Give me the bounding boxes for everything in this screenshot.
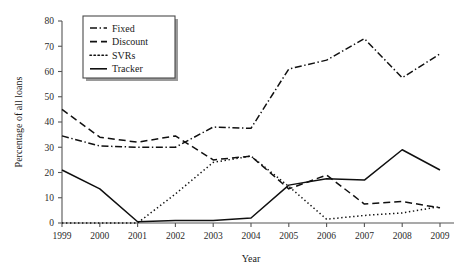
y-axis-title: Percentage of all loans bbox=[13, 76, 24, 167]
line-chart: 01020304050607080 1999200020012002200320… bbox=[0, 0, 463, 272]
series-line-discount bbox=[62, 109, 440, 207]
y-axis: 01020304050607080 bbox=[45, 16, 63, 228]
y-tick-label: 40 bbox=[45, 117, 55, 127]
y-tick-label: 30 bbox=[45, 143, 55, 153]
x-tick-label: 2000 bbox=[90, 231, 109, 241]
x-tick-label: 2007 bbox=[355, 231, 374, 241]
y-tick-label: 50 bbox=[45, 92, 55, 102]
y-tick-label: 80 bbox=[45, 16, 55, 26]
x-tick-label: 2003 bbox=[204, 231, 223, 241]
x-tick-label: 2005 bbox=[279, 231, 298, 241]
x-axis-title: Year bbox=[242, 253, 261, 264]
y-tick-label: 20 bbox=[45, 168, 55, 178]
y-tick-label: 60 bbox=[45, 67, 55, 77]
y-tick-label: 70 bbox=[45, 42, 55, 52]
x-axis: 1999200020012002200320042005200620072008… bbox=[53, 223, 455, 241]
y-tick-label: 0 bbox=[49, 218, 54, 228]
series-line-tracker bbox=[62, 150, 440, 222]
x-tick-label: 2009 bbox=[431, 231, 450, 241]
x-tick-label: 2008 bbox=[393, 231, 412, 241]
legend-label-fixed: Fixed bbox=[112, 23, 135, 34]
x-tick-label: 2002 bbox=[166, 231, 185, 241]
y-tick-label: 10 bbox=[45, 193, 55, 203]
x-tick-label: 1999 bbox=[53, 231, 72, 241]
chart-legend: FixedDiscountSVRsTracker bbox=[83, 16, 178, 81]
legend-label-discount: Discount bbox=[112, 36, 148, 47]
series-line-svrs bbox=[62, 156, 440, 223]
chart-canvas: 01020304050607080 1999200020012002200320… bbox=[0, 0, 463, 272]
x-tick-label: 2004 bbox=[242, 231, 261, 241]
legend-label-svrs: SVRs bbox=[112, 50, 135, 61]
x-tick-label: 2001 bbox=[128, 231, 147, 241]
legend-label-tracker: Tracker bbox=[112, 63, 143, 74]
x-tick-label: 2006 bbox=[317, 231, 336, 241]
